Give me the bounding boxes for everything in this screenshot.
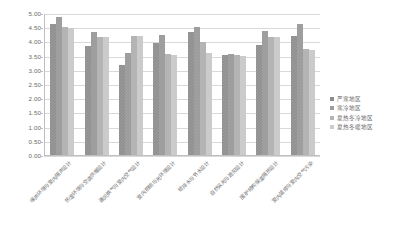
y-axis-tick-label: 5.00 (1, 11, 41, 17)
legend: 严寒地区寒冷地区夏热冬冷地区夏热冬暖地区 (330, 96, 402, 134)
y-axis-tick-label: 3.00 (1, 68, 41, 74)
bar (309, 50, 315, 155)
bar-chart: 5.004.504.003.503.002.502.001.501.000.50… (0, 0, 404, 233)
legend-item[interactable]: 严寒地区 (330, 96, 402, 102)
y-axis-tick-label: 0.00 (1, 153, 41, 159)
y-axis-tick-label: 0.50 (1, 139, 41, 145)
legend-swatch-icon (330, 125, 334, 129)
bar (171, 55, 177, 155)
bar (274, 37, 280, 155)
x-axis-category-label: 室内照明与光环境设计 (136, 160, 176, 200)
y-axis-tick-label: 2.00 (1, 96, 41, 102)
y-axis-tick-mark (41, 57, 43, 58)
y-axis-tick-mark (41, 42, 43, 43)
plot-area (44, 14, 320, 156)
y-axis-tick-mark (41, 156, 43, 157)
bar (240, 56, 246, 155)
y-axis-tick-labels: 5.004.504.003.503.002.502.001.501.000.50… (0, 14, 41, 156)
bar (103, 37, 109, 155)
bar-groups (45, 14, 320, 155)
legend-item[interactable]: 寒冷地区 (330, 105, 402, 111)
bar-group (148, 14, 182, 155)
y-axis-tick-mark (41, 99, 43, 100)
legend-label: 严寒地区 (337, 96, 361, 102)
legend-swatch-icon (330, 116, 334, 120)
bar (206, 53, 212, 155)
x-axis-category-label: 围护结构保温隔热设计 (239, 160, 279, 200)
bar-group (79, 14, 113, 155)
y-axis-tick-mark (41, 113, 43, 114)
y-axis-tick-label: 1.00 (1, 125, 41, 131)
bar-group (286, 14, 320, 155)
bar (68, 28, 74, 155)
y-axis-tick-mark (41, 14, 43, 15)
y-axis-tick-label: 4.00 (1, 39, 41, 45)
y-axis-tick-mark (41, 128, 43, 129)
legend-item[interactable]: 夏热冬冷地区 (330, 115, 402, 121)
legend-label: 夏热冬暖地区 (337, 124, 374, 130)
y-axis-tick-label: 2.50 (1, 82, 41, 88)
y-axis-tick-mark (41, 142, 43, 143)
x-axis-category-label: 给排水与节水设计 (177, 160, 210, 193)
y-axis-tick-mark (41, 28, 43, 29)
y-axis-tick-label: 4.50 (1, 25, 41, 31)
bar-group (251, 14, 285, 155)
legend-item[interactable]: 夏热冬暖地区 (330, 124, 402, 130)
y-axis-tick-mark (41, 85, 43, 86)
y-axis-tick-mark (41, 71, 43, 72)
gridline (44, 156, 320, 157)
y-axis-tick-label: 1.50 (1, 110, 41, 116)
x-axis-line (44, 155, 320, 156)
legend-swatch-icon (330, 97, 334, 101)
bar-group (217, 14, 251, 155)
legend-swatch-icon (330, 106, 334, 110)
bar (137, 36, 143, 155)
x-axis-category-label: 自然采光与遮阳设计 (208, 160, 245, 197)
bar-group (45, 14, 79, 155)
y-axis-tick-label: 3.50 (1, 54, 41, 60)
legend-label: 夏热冬冷地区 (337, 115, 374, 121)
legend-label: 寒冷地区 (337, 105, 361, 111)
bar-group (114, 14, 148, 155)
bar-group (183, 14, 217, 155)
x-axis-category-labels: 噪声环境与室内隔声设计热湿环境与空调供暖设计通风换气与室内空气设计室内照明与光环… (45, 158, 321, 230)
